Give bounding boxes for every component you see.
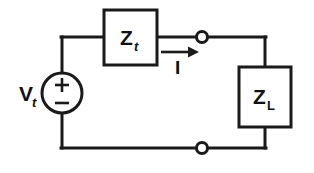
circuit-diagram-figure: Z t Z L V t I: [0, 0, 314, 173]
current-arrow-head: [188, 47, 199, 58]
current-label: I: [175, 57, 180, 78]
load-impedance-subscript: L: [267, 98, 275, 113]
thevenin-impedance-label: Z: [120, 26, 133, 49]
terminal-top-node: [197, 32, 208, 43]
thevenin-impedance-subscript: t: [134, 39, 139, 54]
voltage-source-label: V: [19, 82, 33, 105]
load-impedance-label: Z: [253, 85, 266, 108]
voltage-source-subscript: t: [32, 95, 37, 110]
circuit-canvas: Z t Z L V t I: [0, 0, 314, 173]
terminal-bottom-node: [197, 143, 208, 154]
